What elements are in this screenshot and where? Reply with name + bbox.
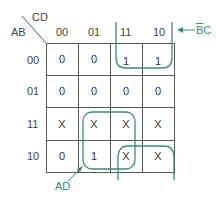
cell-11-00: X bbox=[46, 108, 78, 140]
cell-11-01: X bbox=[78, 108, 110, 140]
row-label-00: 00 bbox=[27, 55, 39, 66]
cell-10-00: 0 bbox=[46, 140, 78, 172]
bc-letter: C bbox=[203, 24, 211, 36]
row-label-10: 10 bbox=[27, 151, 39, 162]
cell-01-01: 0 bbox=[78, 75, 110, 107]
cell-01-11: 0 bbox=[110, 75, 142, 107]
cell-10-01: 1 bbox=[78, 140, 110, 172]
row-variable-label: AB bbox=[11, 27, 26, 38]
row-label-11: 11 bbox=[27, 119, 38, 130]
col-label-00: 00 bbox=[56, 27, 68, 38]
cell-00-11: 1 bbox=[110, 45, 142, 77]
row-label-01: 01 bbox=[27, 86, 39, 97]
column-variable-label: CD bbox=[32, 12, 48, 23]
cell-10-11: X bbox=[110, 140, 142, 172]
cell-10-10: X bbox=[142, 140, 174, 172]
col-label-01: 01 bbox=[88, 27, 100, 38]
col-label-11: 11 bbox=[120, 27, 131, 38]
cell-00-01: 0 bbox=[78, 43, 110, 75]
cell-01-00: 0 bbox=[46, 75, 78, 107]
group-label-ad: AD bbox=[55, 181, 70, 192]
cell-00-00: 0 bbox=[46, 43, 78, 75]
col-label-10: 10 bbox=[153, 27, 165, 38]
cell-00-10: 1 bbox=[142, 45, 174, 77]
cell-11-11: X bbox=[110, 108, 142, 140]
cell-11-10: X bbox=[142, 108, 174, 140]
cell-01-10: 0 bbox=[142, 75, 174, 107]
group-label-bc: BC bbox=[196, 25, 211, 36]
